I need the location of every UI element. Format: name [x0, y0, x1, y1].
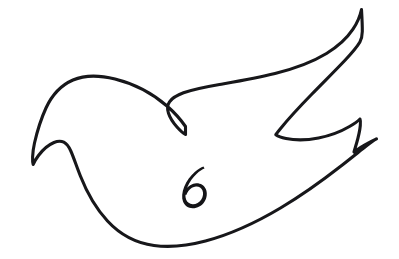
drawing-canvas: Dove Coloring Page Outline drawing of a …: [0, 0, 399, 259]
dove-outline-group: [33, 10, 377, 247]
region-number-glyph: [182, 167, 207, 209]
dove-body-path: [33, 10, 377, 247]
dove-line-drawing: [0, 0, 399, 259]
